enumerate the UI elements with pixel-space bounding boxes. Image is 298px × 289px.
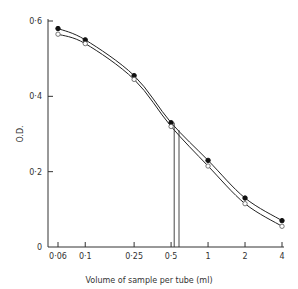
filled-circle-marker [206, 158, 210, 162]
open-circle-marker [169, 124, 173, 128]
x-tick-label: 0·25 [125, 252, 143, 261]
filled-circle-marker [56, 26, 60, 30]
x-axis-title: Volume of sample per tube (ml) [85, 276, 212, 285]
filled-circle-marker [280, 218, 284, 222]
y-axis-title: O.D. [16, 125, 25, 142]
open-circle-marker [243, 201, 247, 205]
curve-open-circles [58, 34, 282, 226]
x-tick-label: 0·1 [79, 252, 92, 261]
x-tick-label: 1 [206, 252, 211, 261]
open-circle-marker [56, 32, 60, 36]
chart-svg: 00·20·40·60·060·10·250·5124Volume of sam… [0, 0, 298, 289]
x-tick-label: 2 [242, 252, 247, 261]
open-circle-marker [132, 77, 136, 81]
x-tick-label: 0·06 [49, 252, 67, 261]
y-tick-label: 0·4 [29, 92, 42, 101]
x-tick-label: 4 [279, 252, 284, 261]
y-tick-label: 0 [37, 243, 42, 252]
curves [58, 29, 282, 247]
y-tick-label: 0·6 [29, 17, 42, 26]
y-tick-label: 0·2 [29, 168, 42, 177]
axis-labels: 00·20·40·60·060·10·250·5124Volume of sam… [16, 17, 285, 285]
axes [48, 19, 284, 247]
x-tick-label: 0·5 [165, 252, 178, 261]
open-circle-marker [83, 41, 87, 45]
open-circle-marker [206, 164, 210, 168]
open-circle-marker [280, 224, 284, 228]
filled-circle-marker [243, 196, 247, 200]
data-markers [56, 26, 284, 228]
